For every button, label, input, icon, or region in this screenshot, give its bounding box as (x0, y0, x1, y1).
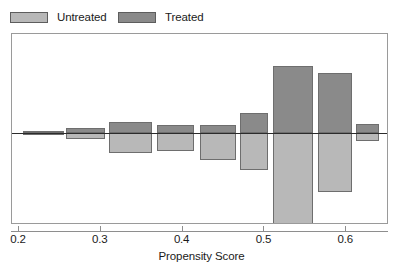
x-axis-line (11, 231, 388, 232)
x-axis-title: Propensity Score (0, 250, 403, 262)
bar-untreated-bin-4 (200, 133, 236, 160)
bar-treated-bin-4 (200, 125, 236, 133)
x-tick-0.3 (100, 226, 101, 231)
legend-entry-treated: Treated (118, 8, 204, 26)
x-tick-label-0.5: 0.5 (256, 233, 271, 245)
bar-untreated-bin-6 (273, 133, 314, 224)
plot-area (11, 33, 388, 224)
bar-treated-bin-2 (109, 122, 152, 133)
bar-treated-bin-6 (273, 66, 314, 133)
x-tick-0.2 (18, 226, 19, 231)
x-tick-label-0.4: 0.4 (174, 233, 189, 245)
legend-swatch-treated (118, 12, 156, 23)
legend-entry-untreated: Untreated (10, 8, 107, 26)
chart-legend: Untreated Treated (0, 8, 403, 28)
bar-untreated-bin-3 (157, 133, 194, 151)
zero-reference-line (12, 133, 387, 134)
bar-treated-bin-7 (318, 73, 352, 133)
bar-untreated-bin-2 (109, 133, 152, 153)
x-tick-0.4 (182, 226, 183, 231)
x-tick-label-0.2: 0.2 (10, 233, 25, 245)
bar-treated-bin-8 (356, 124, 379, 133)
legend-label-untreated: Untreated (57, 12, 107, 23)
bar-untreated-bin-5 (240, 133, 268, 170)
propensity-score-histogram-figure: Untreated Treated 0.20.30.40.50.6 Propen… (0, 0, 403, 270)
legend-swatch-untreated (10, 12, 48, 23)
x-tick-label-0.6: 0.6 (337, 233, 352, 245)
bar-treated-bin-5 (240, 113, 268, 133)
legend-label-treated: Treated (165, 12, 204, 23)
x-tick-0.5 (263, 226, 264, 231)
bar-untreated-bin-7 (318, 133, 352, 192)
bar-treated-bin-3 (157, 125, 194, 133)
x-tick-label-0.3: 0.3 (92, 233, 107, 245)
bar-untreated-bin-8 (356, 133, 379, 141)
x-tick-0.6 (345, 226, 346, 231)
